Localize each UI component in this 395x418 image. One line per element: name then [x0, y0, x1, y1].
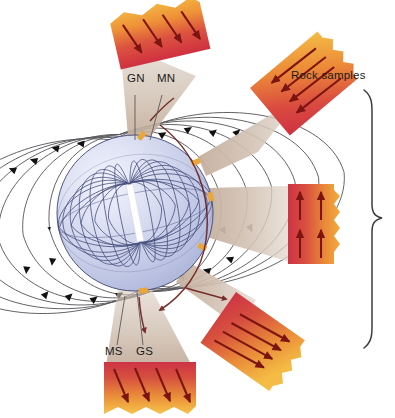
label-geographic-north: GN [127, 72, 145, 84]
rock-sample-equatorial [288, 184, 340, 264]
diagram-canvas [0, 0, 395, 418]
rock-sample-south-polar [104, 362, 196, 414]
paleomagnetism-diagram: GN MN MS GS Rock samples [0, 0, 395, 418]
label-rock-samples: Rock samples [291, 69, 366, 81]
label-geographic-south: GS [136, 345, 153, 357]
label-magnetic-north: MN [157, 72, 175, 84]
label-magnetic-south: MS [105, 345, 123, 357]
rock-sample-north-polar [108, 0, 210, 70]
rock-samples-brace [364, 90, 382, 348]
